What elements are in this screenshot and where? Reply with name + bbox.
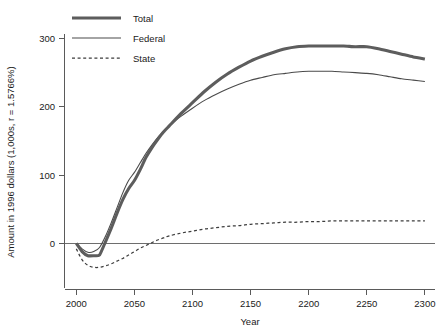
y-axis-ticks [59,39,65,244]
x-tick-label-2300: 2300 [414,298,435,309]
x-axis-ticks [76,290,425,296]
x-axis-title: Year [240,316,259,327]
y-tick-label-100: 100 [39,170,55,181]
series-line-state [76,221,425,268]
legend-label-state: State [133,53,155,64]
y-tick-label-200: 200 [39,101,55,112]
chart-legend: Total Federal State [72,13,165,64]
line-chart: 300 200 100 0 2000 2050 2100 2150 2200 2… [0,0,443,335]
x-tick-label-2100: 2100 [182,298,203,309]
y-axis-title: Amount in 1996 dollars (1,000s, r = 1.57… [5,66,16,257]
x-tick-label-2200: 2200 [298,298,319,309]
y-tick-label-0: 0 [50,238,55,249]
x-tick-label-2250: 2250 [356,298,377,309]
x-tick-label-2000: 2000 [66,298,87,309]
x-tick-label-2150: 2150 [240,298,261,309]
y-tick-label-300: 300 [39,33,55,44]
series-line-federal [76,71,425,252]
x-tick-label-2050: 2050 [124,298,145,309]
chart-container: 300 200 100 0 2000 2050 2100 2150 2200 2… [0,0,443,335]
x-axis-tick-labels: 2000 2050 2100 2150 2200 2250 2300 [66,298,436,309]
legend-label-total: Total [133,13,153,24]
y-axis-tick-labels: 300 200 100 0 [39,33,55,249]
legend-label-federal: Federal [133,33,165,44]
